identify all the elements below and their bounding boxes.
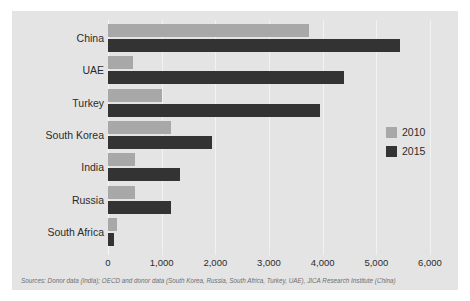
gridline-4000: [323, 20, 324, 255]
legend-label-2015: 2015: [402, 146, 425, 157]
bar-south-korea-2015: [108, 136, 212, 149]
bar-russia-2015: [108, 201, 171, 214]
bar-uae-2015: [108, 71, 344, 84]
x-tick-label-0: 0: [105, 258, 110, 268]
legend-label-2010: 2010: [402, 127, 425, 138]
category-label-russia: Russia: [72, 195, 104, 206]
chart-source-note: Sources: Donor data (India); OECD and do…: [21, 277, 461, 285]
bar-uae-2010: [108, 56, 133, 69]
bar-south-africa-2010: [108, 218, 117, 231]
legend-swatch-2010: [386, 127, 397, 138]
category-label-south-korea: South Korea: [46, 130, 104, 141]
chart-figure: ChinaUAETurkeySouth KoreaIndiaRussiaSout…: [0, 0, 470, 301]
category-label-uae: UAE: [82, 65, 104, 76]
gridline-2000: [215, 20, 216, 255]
chart-x-axis-ticks: 01,0002,0003,0004,0005,0006,000: [0, 258, 470, 272]
category-label-india: India: [81, 162, 104, 173]
x-tick-label-6000: 6,000: [418, 258, 442, 268]
category-label-china: China: [77, 33, 104, 44]
bar-india-2015: [108, 168, 180, 181]
category-label-turkey: Turkey: [72, 98, 104, 109]
gridline-3000: [269, 20, 270, 255]
legend-item-2015: 2015: [386, 146, 425, 157]
x-tick-label-2000: 2,000: [203, 258, 227, 268]
bar-russia-2010: [108, 186, 135, 199]
bar-south-korea-2010: [108, 121, 171, 134]
category-label-south-africa: South Africa: [47, 227, 104, 238]
x-tick-label-3000: 3,000: [257, 258, 281, 268]
bar-india-2010: [108, 153, 135, 166]
x-tick-label-1000: 1,000: [150, 258, 174, 268]
bar-turkey-2010: [108, 89, 162, 102]
legend-item-2010: 2010: [386, 127, 425, 138]
bar-turkey-2015: [108, 104, 320, 117]
x-tick-label-5000: 5,000: [364, 258, 388, 268]
bar-south-africa-2015: [108, 233, 114, 246]
chart-category-axis: ChinaUAETurkeySouth KoreaIndiaRussiaSout…: [12, 11, 104, 290]
chart-legend: 20102015: [386, 127, 425, 165]
gridline-6000: [430, 20, 431, 255]
bar-china-2015: [108, 39, 400, 52]
gridline-5000: [376, 20, 377, 255]
legend-swatch-2015: [386, 146, 397, 157]
x-tick-label-4000: 4,000: [311, 258, 335, 268]
bar-china-2010: [108, 24, 309, 37]
